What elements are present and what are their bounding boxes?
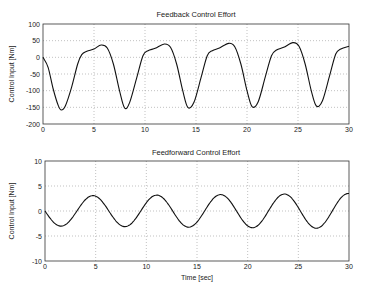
x-tick-label: 30 [345, 263, 353, 270]
x-tick-label: 10 [142, 263, 150, 270]
y-tick-label: 10 [34, 158, 42, 165]
feedback-grid [43, 24, 349, 124]
x-tick-label: 0 [43, 263, 47, 270]
feedforward-plot: Feedforward Control Effort 051015202530-… [8, 148, 353, 282]
x-tick-label: 10 [141, 126, 149, 133]
time-xlabel: Time [sec] [181, 274, 213, 282]
x-tick-label: 25 [294, 263, 302, 270]
x-tick-label: 5 [94, 263, 98, 270]
y-tick-label: -150 [26, 104, 40, 111]
y-tick-label: 0 [38, 208, 42, 215]
chart-figure: Feedback Control Effort 051015202530-200… [0, 0, 371, 290]
x-tick-label: 15 [192, 126, 200, 133]
feedforward-grid [45, 161, 349, 261]
x-tick-label: 20 [243, 126, 251, 133]
feedback-ylabel: Control Input [Nm] [8, 46, 16, 103]
feedforward-ylabel: Control Input [Nm] [8, 183, 16, 240]
y-tick-label: -100 [26, 87, 40, 94]
feedback-plot: Feedback Control Effort 051015202530-200… [8, 10, 353, 133]
y-tick-label: -10 [32, 258, 42, 265]
x-tick-label: 25 [294, 126, 302, 133]
x-tick-label: 15 [193, 263, 201, 270]
feedforward-ticks: 051015202530-10-50510 [32, 158, 353, 271]
y-tick-label: -200 [26, 121, 40, 128]
x-tick-label: 5 [92, 126, 96, 133]
y-tick-label: 50 [32, 37, 40, 44]
y-tick-label: 5 [38, 183, 42, 190]
feedback-ticks: 051015202530-200-150-100-50050100 [26, 21, 353, 134]
feedback-title: Feedback Control Effort [156, 10, 236, 19]
y-tick-label: 100 [28, 21, 40, 28]
y-tick-label: 0 [36, 54, 40, 61]
x-tick-label: 30 [345, 126, 353, 133]
feedforward-title: Feedforward Control Effort [152, 148, 241, 157]
x-tick-label: 0 [41, 126, 45, 133]
y-tick-label: -5 [36, 233, 42, 240]
y-tick-label: -50 [30, 71, 40, 78]
x-tick-label: 20 [244, 263, 252, 270]
